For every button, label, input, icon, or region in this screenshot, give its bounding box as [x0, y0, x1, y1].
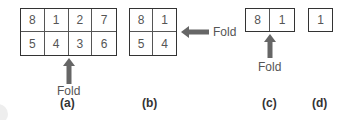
- grid-a: 81275436: [20, 8, 117, 56]
- grid-cell: 4: [153, 32, 176, 55]
- grid-cell: 1: [153, 9, 176, 32]
- grid-d: 1: [308, 8, 333, 32]
- grid-cell: 3: [69, 32, 93, 55]
- fold-label-c: Fold: [258, 60, 281, 74]
- caption-c: (c): [262, 96, 277, 110]
- fold-label-b: Fold: [213, 25, 236, 39]
- grid-cell: 1: [309, 9, 332, 31]
- grid-b: 8154: [129, 8, 177, 56]
- grid-cell: 1: [45, 9, 69, 32]
- grid-cell: 1: [270, 9, 294, 31]
- grid-cell: 7: [92, 9, 116, 32]
- fold-arrow-up-icon: [63, 58, 75, 84]
- grid-cell: 8: [21, 9, 45, 32]
- grid-cell: 2: [69, 9, 93, 32]
- grid-cell: 5: [21, 32, 45, 55]
- grid-c: 81: [245, 8, 295, 32]
- caption-b: (b): [142, 96, 157, 110]
- corner-decoration: [0, 104, 8, 120]
- grid-cell: 8: [246, 9, 270, 31]
- grid-cell: 4: [45, 32, 69, 55]
- fold-arrow-left-icon: [181, 26, 209, 38]
- grid-cell: 8: [130, 9, 153, 32]
- grid-cell: 5: [130, 32, 153, 55]
- fold-arrow-up-icon: [264, 34, 276, 58]
- caption-a: (a): [60, 96, 75, 110]
- caption-d: (d): [312, 96, 327, 110]
- grid-cell: 6: [92, 32, 116, 55]
